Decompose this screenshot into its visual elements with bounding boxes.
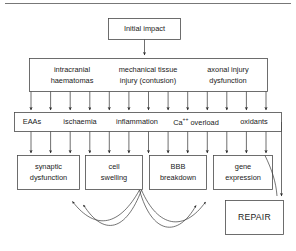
node-primary-injury-group: intracranial haematomas mechanical tissu… <box>30 59 268 92</box>
mediator-3-label: Ca++ overload <box>173 116 219 127</box>
edge-feedback-left <box>73 190 142 225</box>
mediator-2-label: inflammation <box>116 117 158 126</box>
node-outcome-0: synaptic dysfunction <box>18 156 80 190</box>
primary-injury-0-line1: intracranial <box>54 65 91 74</box>
mediator-0-label: EAAs <box>23 117 42 126</box>
outcome-0-line2: dysfunction <box>30 173 67 182</box>
primary-injury-2-line2: dysfunction <box>209 76 246 85</box>
outcome-1-line1: cell <box>108 162 119 171</box>
repair-label: REPAIR <box>238 212 271 222</box>
node-outcome-3: gene expression <box>214 156 273 190</box>
primary-injury-1-line1: mechanical tissue <box>119 65 178 74</box>
node-repair: REPAIR <box>226 201 284 235</box>
edge-primary-to-mediators <box>31 92 266 111</box>
outcome-3-line1: gene <box>235 162 251 171</box>
node-mediators-group: EAAs ischaemia inflammation Ca++ overloa… <box>15 113 282 132</box>
node-outcome-1: cell swelling <box>86 156 143 190</box>
initial-impact-label: Initial impact <box>124 24 165 33</box>
diagram-page: Initial impact intracranial haematomas m… <box>0 0 296 251</box>
edge-mediators-to-outcomes <box>31 132 266 154</box>
outcome-2-line1: BBB <box>171 162 186 171</box>
outcome-0-line1: synaptic <box>35 162 62 171</box>
edge-feedback-right <box>140 190 206 227</box>
node-initial-impact: Initial impact <box>109 19 181 40</box>
outcome-2-line2: breakdown <box>160 173 196 182</box>
primary-injury-1-line2: injury (contusion) <box>120 76 176 85</box>
primary-injury-2-line1: axonal injury <box>207 65 249 74</box>
outcome-1-line2: swelling <box>101 173 127 182</box>
outcome-3-line2: expression <box>225 173 261 182</box>
node-outcome-2: BBB breakdown <box>150 156 207 190</box>
primary-injury-0-line2: haematomas <box>51 76 94 85</box>
mediator-4-label: oxidants <box>240 117 268 126</box>
flowchart-canvas: Initial impact intracranial haematomas m… <box>0 0 296 251</box>
mediator-1-label: ischaemia <box>63 117 97 126</box>
